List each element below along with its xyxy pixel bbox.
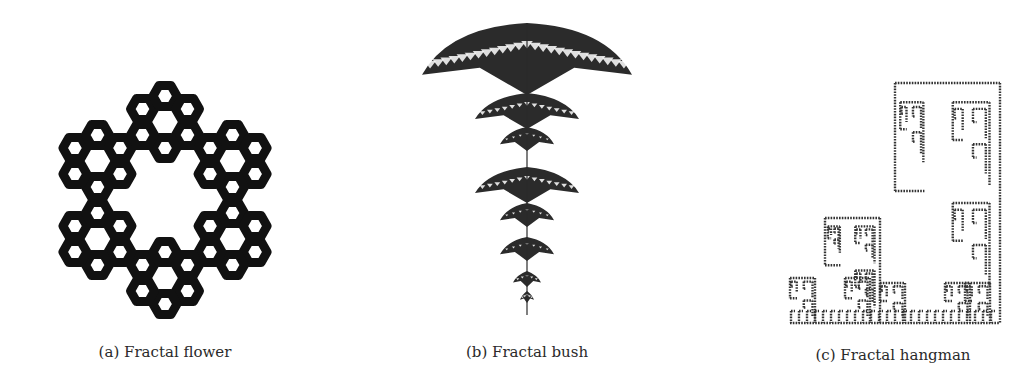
figure-panel-fractal-flower bbox=[30, 70, 300, 330]
figure-panel-fractal-bush bbox=[415, 15, 640, 330]
figure-panel-fractal-hangman bbox=[785, 78, 1010, 333]
fractal-bush-image bbox=[415, 15, 640, 330]
fractal-flower-image bbox=[30, 70, 300, 330]
caption-fractal-flower: (a) Fractal flower bbox=[99, 343, 232, 361]
caption-fractal-bush: (b) Fractal bush bbox=[466, 343, 588, 361]
caption-fractal-hangman: (c) Fractal hangman bbox=[815, 346, 970, 364]
fractal-hangman-image bbox=[785, 78, 1010, 333]
